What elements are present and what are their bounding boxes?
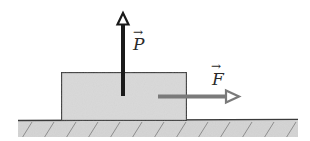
vector-f-arrowhead-icon — [226, 91, 239, 103]
label-f-text: F — [211, 69, 225, 89]
vector-p-arrowhead-icon — [118, 13, 129, 25]
label-p-text: P — [132, 34, 145, 54]
label-p: → P — [132, 25, 145, 54]
force-diagram: → P → F — [0, 0, 310, 141]
ground-hatch-area — [18, 121, 298, 137]
label-f: → F — [211, 59, 225, 89]
ground — [18, 120, 298, 138]
